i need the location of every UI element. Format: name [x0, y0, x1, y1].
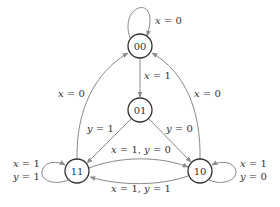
state-node-01: 01 [128, 98, 152, 122]
state-node-11: 11 [65, 159, 89, 183]
node-label: 01 [134, 105, 147, 116]
edge-11-11 [42, 162, 68, 182]
node-label: 10 [194, 166, 207, 177]
label-11-10: x = 1, y = 0 [111, 144, 171, 155]
label-10-10-line2: y = 0 [239, 171, 267, 182]
label-01-11: y = 1 [86, 123, 114, 134]
node-label: 00 [134, 41, 147, 52]
label-10-10-line1: x = 1 [240, 158, 267, 169]
label-01-10: y = 0 [165, 123, 193, 134]
label-10-11: x = 1, y = 1 [111, 183, 171, 194]
label-11-11-line1: x = 1 [13, 158, 40, 169]
label-00-00: x = 0 [155, 15, 182, 26]
edge-11-10 [89, 159, 188, 168]
state-node-10: 10 [188, 159, 212, 183]
state-diagram: 00 01 11 10 x = 0 x = 1 x = 0 x = 0 y = … [0, 0, 280, 207]
state-node-00: 00 [128, 34, 152, 58]
label-10-00: x = 0 [194, 88, 221, 99]
edge-10-10 [209, 162, 236, 182]
node-label: 11 [71, 166, 84, 177]
label-11-11-line2: y = 1 [12, 171, 40, 182]
label-11-00: x = 0 [58, 88, 85, 99]
label-00-01: x = 1 [144, 70, 171, 81]
